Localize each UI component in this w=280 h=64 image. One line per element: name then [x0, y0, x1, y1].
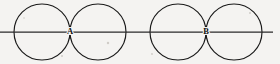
figure-canvas: A B: [0, 0, 280, 64]
scan-speck: [61, 55, 63, 57]
scan-speck: [249, 12, 251, 14]
point-label-b: B: [203, 26, 209, 36]
scan-speck: [23, 17, 25, 19]
point-label-a: A: [67, 26, 74, 36]
geometry-figure: A B: [0, 0, 280, 64]
scan-speck: [107, 42, 109, 44]
scan-speck: [151, 53, 153, 55]
